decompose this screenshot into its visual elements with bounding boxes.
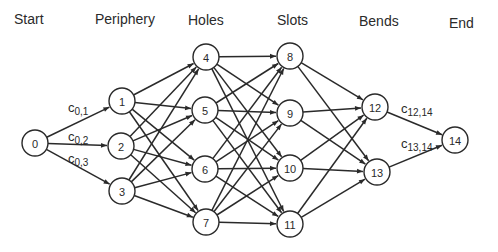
node-12: 12 — [362, 94, 388, 120]
edge-3-7 — [134, 196, 193, 218]
node-3: 3 — [109, 178, 135, 204]
node-0: 0 — [22, 130, 48, 156]
node-9: 9 — [277, 100, 303, 126]
node-5: 5 — [192, 97, 218, 123]
stage-graph-diagram: StartPeripheryHolesSlotsBendsEnd c0,1c0,… — [0, 0, 498, 252]
edge-7-11 — [219, 222, 276, 223]
edge-4-8 — [219, 56, 276, 57]
edge-3-6 — [135, 173, 192, 188]
node-7: 7 — [193, 209, 219, 235]
edge-3-4 — [129, 69, 199, 180]
node-label: 4 — [203, 52, 209, 64]
node-label: 3 — [119, 186, 125, 198]
edge-1-5 — [135, 102, 191, 108]
stage-label-periphery: Periphery — [95, 11, 155, 27]
stage-label-start: Start — [14, 11, 44, 27]
node-label: 0 — [32, 138, 38, 150]
node-11: 11 — [277, 211, 303, 237]
edge-11-13 — [301, 179, 365, 217]
edge-label-13-14: c13,14 — [401, 136, 433, 153]
edge-8-12 — [301, 63, 363, 100]
edge-10-12 — [301, 115, 364, 160]
node-label: 6 — [202, 164, 208, 176]
node-label: 10 — [284, 163, 296, 175]
node-6: 6 — [192, 156, 218, 182]
stage-label-slots: Slots — [277, 12, 308, 28]
edge-label-0-2: c0,2 — [68, 129, 89, 146]
edge-9-13 — [301, 120, 366, 164]
edge-label-12-14: c12,14 — [401, 101, 433, 118]
node-label: 12 — [369, 102, 381, 114]
edge-2-5 — [133, 116, 192, 141]
node-8: 8 — [277, 43, 303, 69]
node-label: 7 — [203, 217, 209, 229]
edge-8-13 — [298, 66, 369, 160]
stage-label-end: End — [449, 15, 474, 31]
edge-label-0-1: c0,1 — [68, 100, 89, 117]
node-14: 14 — [442, 127, 468, 153]
node-label: 11 — [284, 219, 295, 231]
node-13: 13 — [364, 159, 390, 185]
node-label: 8 — [287, 51, 293, 63]
node-10: 10 — [277, 155, 303, 181]
node-label: 5 — [202, 105, 208, 117]
node-1: 1 — [109, 88, 135, 114]
edge-10-13 — [303, 169, 363, 172]
stage-label-bends: Bends — [359, 13, 399, 29]
node-label: 9 — [287, 108, 293, 120]
node-label: 14 — [449, 135, 461, 147]
node-label: 13 — [371, 167, 383, 179]
stage-labels: StartPeripheryHolesSlotsBendsEnd — [14, 11, 474, 31]
edge-1-6 — [132, 109, 194, 160]
edge-label-0-3: c0,3 — [68, 151, 89, 168]
stage-label-holes: Holes — [188, 12, 224, 28]
node-4: 4 — [193, 44, 219, 70]
node-label: 1 — [119, 96, 125, 108]
edge-5-10 — [216, 117, 279, 160]
edges — [46, 56, 442, 224]
node-2: 2 — [108, 133, 134, 159]
node-label: 2 — [118, 141, 124, 153]
